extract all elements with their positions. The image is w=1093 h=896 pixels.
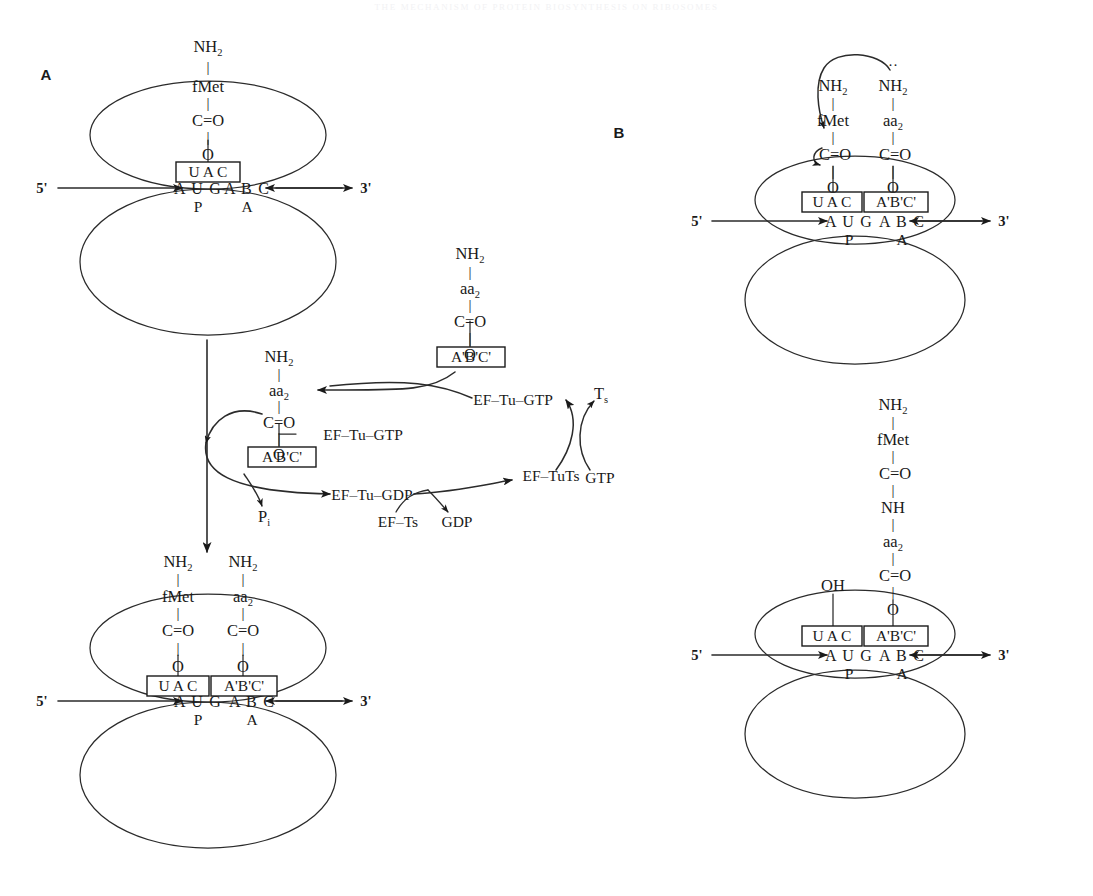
panelA-bottom-codon-a: A B C [229,693,275,710]
panel-a-letter: A [41,66,52,83]
panelB-bottom-three-prime: 3' [998,647,1009,663]
diagram-svg: A B NH2 | fMet | C=O | O U A C A U G A B… [0,0,1093,896]
panelA-bound-anticodon: A'B'C' [262,448,302,465]
panelA-bottom-codon-p: A U G [174,693,222,710]
panelB-bottom-carbonyl1: C=O [879,464,911,483]
panelB-bottom-oh: OH [821,576,845,595]
panelA-incoming-bond2: | [468,297,471,313]
panelA-bottom-site-p: P [194,711,203,728]
panelA-cycle-eftu-gtp: EF–Tu–GTP [473,391,553,408]
panelB-bottom-nh2: NH2 [878,395,907,416]
panelA-bottom-p-carbonyl: C=O [162,621,194,640]
panelA-top-nh2: NH2 [193,37,222,58]
panelA-bottom-a-bond3: | [241,640,244,656]
panelB-top-codon-p: A U G [825,213,873,230]
panelA-top-five-prime: 5' [36,180,47,196]
panelA-cycle-gdp: GDP [441,513,472,530]
panelB-top-a-bond2: | [891,129,894,145]
panelB-top-a-bond3: | [891,163,894,179]
panelA-top-bond1: | [206,59,209,75]
panelA-pi-arrow [244,474,262,506]
panelB-top-p-fmet: fMet [817,111,849,130]
panelB-bottom-site-p: P [845,665,854,682]
panelA-cycle-eftuts: EF–TuTs [523,467,580,484]
panelA-bottom-p-bond3: | [176,640,179,656]
panelB-bottom-codon-p: A U G [825,647,873,664]
panelA-bottom-p-bond2: | [176,605,179,621]
panelA-top-codon-p: A U G [174,180,222,197]
panelA-top-site-p: P [194,198,203,215]
panelB-bottom-ribosome-shape [745,590,965,798]
panelB-bottom-oxygen: O [887,600,899,619]
panelA-bottom-p-nh2: NH2 [163,552,192,573]
panelA-bottom-ribosome-shape [80,594,336,848]
panelB-bottom-fmet: fMet [877,430,909,449]
panelA-bottom-p-bond1: | [176,571,179,587]
panelB-bottom-codon-a: A B C [879,647,925,664]
panelA-incoming-carbonyl: C=O [454,312,486,331]
panelB-top-p-nh2: NH2 [818,76,847,97]
panelA-bottom-p-oxygen: O [172,657,184,676]
panelB-lone-pair-dots: ·· [888,57,898,73]
panelB-top-five-prime: 5' [691,213,702,229]
panelA-top-bond3: | [206,129,209,145]
panelB-top-site-p: P [845,231,854,248]
panelA-incoming-anticodon: A'B'C' [451,348,491,365]
panelB-bottom-bond4: | [891,516,894,532]
panelA-bottom-a-bond1: | [241,571,244,587]
panelA-bottom-five-prime: 5' [36,693,47,709]
panelA-cycle-gtp: GTP [585,469,614,486]
panelA-top-oxygen: O [202,145,214,164]
panelB-top-codon-a: A B C [879,213,925,230]
panelA-gdp-exchange-arrow [414,480,512,494]
panelB-bottom-anticodon-p: U A C [813,627,852,644]
panelA-cycle-eftu-gdp: EF–Tu–GDP [331,486,412,503]
panelA-bound-eftu-gtp: EF–Tu–GTP [323,426,403,443]
panelB-bottom-bond2: | [891,448,894,464]
panelA-top-carbonyl: C=O [192,111,224,130]
panelB-top-site-a: A [896,231,908,248]
panelA-bottom-anticodon-a: A'B'C' [224,677,264,694]
panelA-bottom-site-a: A [246,711,258,728]
panelA-gdp-out-arrow [428,490,448,512]
panelA-cycle-ts: Ts [594,384,608,405]
panelB-bottom-carbonyl2: C=O [879,566,911,585]
panelB-bottom-bond5: | [891,550,894,566]
panelA-top-codon-a: A B C [224,180,270,197]
panelA-top-three-prime: 3' [360,180,371,196]
panelA-delivery-arrow [206,411,262,443]
panelA-bound-bond1: | [277,366,280,382]
panelB-top-ribosome-shape [745,156,965,364]
panelB-top-anticodon-p: U A C [813,193,852,210]
panelA-top-anticodon: U A C [189,163,228,180]
panelA-bottom-p-fmet: fMet [162,587,194,606]
panelA-top-fmet: fMet [192,77,224,96]
panelA-incoming-bond1: | [468,264,471,280]
panelA-bottom-a-bond2: | [241,605,244,621]
panelB-bottom-bond3: | [891,482,894,498]
panelB-bottom-nh: NH [881,498,905,517]
panelA-bound-bond2: | [277,398,280,414]
panelA-cycle-efts: EF–Ts [378,513,418,530]
panelB-bottom-five-prime: 5' [691,647,702,663]
panelB-top-p-bond1: | [831,95,834,111]
panelA-bottom-a-carbonyl: C=O [227,621,259,640]
panelB-top-p-bond2: | [831,129,834,145]
panelB-top-p-carbonyl: C=O [819,145,851,164]
figure-canvas: The Mechanism of Protein Biosynthesis on… [0,0,1093,896]
panelB-top-anticodon-a: A'B'C' [876,193,916,210]
panelA-bottom-three-prime: 3' [360,693,371,709]
panelA-bottom-a-oxygen: O [237,657,249,676]
panelB-top-a-nh2: NH2 [878,76,907,97]
panelA-bound-nh2: NH2 [264,347,293,368]
panelA-tuts-to-tugtp-arrow [556,400,573,470]
panelA-bottom-anticodon-p: U A C [159,677,198,694]
panelB-bottom-anticodon-a: A'B'C' [876,627,916,644]
panelB-bottom-bond1: | [891,414,894,430]
panel-b-letter: B [614,124,625,141]
panelA-incoming-arrow [318,372,455,390]
panelA-bottom-a-nh2: NH2 [228,552,257,573]
panelB-bottom-site-a: A [896,665,908,682]
panelA-incoming-nh2: NH2 [455,244,484,265]
panelA-top-site-a: A [241,198,253,215]
